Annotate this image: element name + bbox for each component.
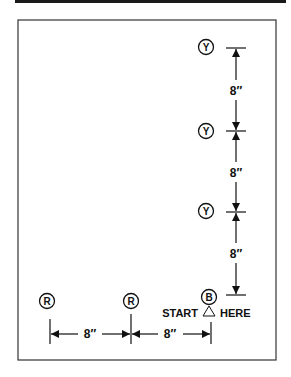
svg-text:R: R <box>43 296 51 307</box>
start-label: START <box>162 307 198 319</box>
cone-drill-diagram: 8″ 8″ 8″ Y Y Y B START HERE R R 8″ 8″ <box>0 0 291 377</box>
dimension-label-v3: 8″ <box>230 247 243 261</box>
svg-text:Y: Y <box>203 206 210 217</box>
svg-text:R: R <box>127 296 135 307</box>
svg-text:Y: Y <box>203 126 210 137</box>
marker-r-1: R <box>40 294 55 309</box>
marker-b-start: B <box>202 290 217 305</box>
marker-y-2: Y <box>199 124 214 139</box>
svg-text:Y: Y <box>203 42 210 53</box>
here-label: HERE <box>220 307 251 319</box>
marker-r-2: R <box>124 294 139 309</box>
svg-text:B: B <box>205 292 212 303</box>
marker-y-3: Y <box>199 204 214 219</box>
dimension-label-h1: 8″ <box>84 327 97 341</box>
start-triangle-icon <box>203 306 215 316</box>
marker-y-1: Y <box>199 40 214 55</box>
dimension-label-h2: 8″ <box>164 327 177 341</box>
dimension-label-v1: 8″ <box>230 84 243 98</box>
dimension-label-v2: 8″ <box>230 166 243 180</box>
